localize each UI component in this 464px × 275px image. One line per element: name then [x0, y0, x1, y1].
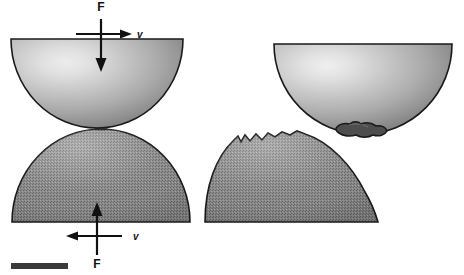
left-upper-velocity-arrow — [76, 30, 132, 39]
left-panel: F v F v — [11, 0, 190, 271]
figure-root: F v F v — [0, 0, 464, 275]
figure-canvas: F v F v — [0, 0, 464, 275]
left-lower-velocity-arrowhead — [66, 232, 78, 241]
left-lower-velocity-label: v — [133, 231, 140, 242]
left-upper-velocity-arrowhead — [120, 30, 132, 39]
left-lower-velocity-arrow — [66, 232, 122, 241]
left-lower-force-label: F — [93, 257, 100, 271]
right-lower-hemisphere — [205, 131, 378, 222]
left-upper-hemisphere-body — [11, 39, 183, 128]
left-upper-force-label: F — [97, 0, 104, 14]
right-panel — [205, 44, 452, 222]
scale-bar — [11, 263, 68, 269]
left-upper-hemisphere — [11, 39, 183, 128]
left-contact-point — [94, 127, 108, 130]
right-upper-hemisphere — [274, 44, 452, 134]
right-upper-hemisphere-body — [274, 44, 452, 134]
right-lower-hemisphere-shading — [205, 131, 378, 222]
left-lower-hemisphere-shading — [12, 129, 190, 222]
left-lower-hemisphere — [12, 129, 190, 222]
